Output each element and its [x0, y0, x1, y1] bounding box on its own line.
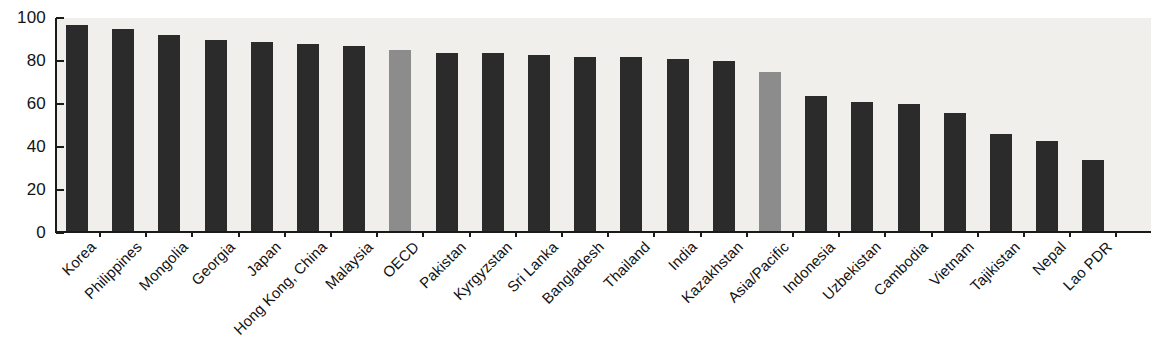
- bar-hong-kong-china: [297, 44, 319, 231]
- x-tick-label: Thailand: [600, 238, 653, 291]
- x-tick-label-text: Nepal: [1029, 238, 1069, 278]
- x-tick-mark: [607, 231, 609, 237]
- x-tick-mark: [238, 231, 240, 237]
- x-tick-label: Mongolia: [136, 238, 192, 294]
- x-tick-label-text: India: [664, 238, 699, 273]
- y-tick-label: 0: [0, 223, 46, 243]
- x-tick-mark: [931, 231, 933, 237]
- bar-georgia: [205, 40, 227, 231]
- bar-uzbekistan: [851, 102, 873, 231]
- x-tick-label: Georgia: [187, 238, 237, 288]
- bar-japan: [251, 42, 273, 231]
- y-tick-mark: [56, 146, 64, 148]
- x-tick-label: OECD: [379, 238, 422, 281]
- x-tick-mark: [515, 231, 517, 237]
- y-tick-label: 60: [0, 94, 46, 114]
- x-tick-label: Lao PDR: [1060, 238, 1116, 294]
- x-tick-label-text: Tajikistan: [967, 238, 1023, 294]
- x-tick-label-text: Lao PDR: [1060, 238, 1116, 294]
- bar-sri-lanka: [528, 55, 550, 231]
- bar-philippines: [112, 29, 134, 231]
- x-tick-mark: [469, 231, 471, 237]
- bar-pakistan: [436, 53, 458, 231]
- bar-vietnam: [944, 113, 966, 231]
- y-tick-label: 100: [0, 8, 46, 28]
- bar-bangladesh: [574, 57, 596, 231]
- bar-indonesia: [805, 96, 827, 231]
- x-tick-mark: [376, 231, 378, 237]
- bar-korea: [66, 25, 88, 231]
- x-tick-label-text: Mongolia: [136, 238, 192, 294]
- bar-oecd: [389, 50, 411, 231]
- y-tick-label: 80: [0, 51, 46, 71]
- x-tick-mark: [792, 231, 794, 237]
- x-tick-mark: [422, 231, 424, 237]
- x-axis: KoreaPhilippinesMongoliaGeorgiaJapanHong…: [55, 238, 1151, 340]
- x-tick-label: Tajikistan: [967, 238, 1023, 294]
- x-tick-mark: [1069, 231, 1071, 237]
- plot-area: [55, 18, 1151, 233]
- x-tick-label: Japan: [243, 238, 284, 279]
- x-tick-mark: [330, 231, 332, 237]
- x-tick-mark: [1023, 231, 1025, 237]
- y-tick-mark: [56, 103, 64, 105]
- x-tick-label: India: [664, 238, 699, 273]
- x-tick-label-text: Georgia: [187, 238, 237, 288]
- y-tick-label: 20: [0, 180, 46, 200]
- x-tick-mark: [145, 231, 147, 237]
- x-tick-label-text: OECD: [379, 238, 422, 281]
- bar-kyrgyzstan: [482, 53, 504, 231]
- y-tick-mark: [56, 60, 64, 62]
- bar-cambodia: [898, 104, 920, 231]
- bar-lao-pdr: [1082, 160, 1104, 231]
- bars-layer: [57, 18, 1151, 231]
- x-tick-mark: [884, 231, 886, 237]
- bar-tajikistan: [990, 134, 1012, 231]
- x-tick-mark: [284, 231, 286, 237]
- x-tick-mark: [1115, 231, 1117, 237]
- y-tick-mark: [56, 17, 64, 19]
- x-tick-label-text: Malaysia: [322, 238, 376, 292]
- x-tick-label: Malaysia: [322, 238, 376, 292]
- y-axis: 020406080100: [0, 0, 46, 251]
- x-tick-mark: [746, 231, 748, 237]
- y-tick-mark: [56, 189, 64, 191]
- x-tick-mark: [977, 231, 979, 237]
- x-tick-label: Nepal: [1029, 238, 1069, 278]
- x-tick-label-text: Thailand: [600, 238, 653, 291]
- bar-mongolia: [158, 35, 180, 231]
- bar-nepal: [1036, 141, 1058, 231]
- x-tick-mark: [561, 231, 563, 237]
- bar-malaysia: [343, 46, 365, 231]
- x-tick-label: Korea: [58, 238, 99, 279]
- x-tick-mark: [191, 231, 193, 237]
- y-tick-label: 40: [0, 137, 46, 157]
- x-tick-label-text: Japan: [243, 238, 284, 279]
- bar-thailand: [620, 57, 642, 231]
- bar-india: [667, 59, 689, 231]
- y-tick-mark: [56, 232, 64, 234]
- x-tick-mark: [653, 231, 655, 237]
- bar-asia-pacific: [759, 72, 781, 231]
- bar-kazakhstan: [713, 61, 735, 231]
- x-tick-mark: [838, 231, 840, 237]
- x-tick-label-text: Korea: [58, 238, 99, 279]
- x-tick-mark: [700, 231, 702, 237]
- x-tick-mark: [99, 231, 101, 237]
- bar-chart: 020406080100 KoreaPhilippinesMongoliaGeo…: [0, 0, 1151, 340]
